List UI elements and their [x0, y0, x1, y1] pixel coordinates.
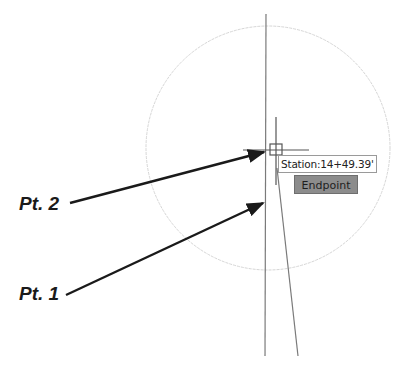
station-tooltip: Station:14+49.39' [278, 155, 377, 173]
arrow-pt1 [66, 203, 263, 295]
label-pt2: Pt. 2 [19, 194, 59, 213]
reference-circle [146, 26, 390, 270]
alignment-line-slanted [277, 168, 298, 356]
label-pt1: Pt. 1 [19, 284, 59, 303]
alignment-line-vertical [265, 14, 266, 356]
arrow-pt2 [70, 152, 264, 203]
endpoint-osnap-badge: Endpoint [294, 175, 358, 194]
